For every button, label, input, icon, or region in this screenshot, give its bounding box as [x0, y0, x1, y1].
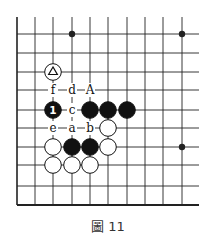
star-point	[179, 144, 185, 150]
move-number: 1	[49, 104, 56, 116]
point-label-b: b	[86, 121, 94, 135]
black-stone	[119, 102, 136, 119]
star-point	[69, 31, 75, 37]
black-stone	[64, 139, 81, 156]
star-point	[179, 31, 185, 37]
white-stone	[45, 139, 62, 156]
point-label-A: A	[85, 83, 95, 97]
go-board-diagram: fdAceab 1	[0, 0, 216, 210]
white-stone	[64, 157, 81, 174]
point-label-e: e	[49, 121, 56, 135]
black-stone	[82, 139, 99, 156]
black-stone	[100, 102, 117, 119]
black-stone-1: 1	[45, 102, 62, 119]
white-stone	[45, 64, 62, 81]
point-label-a: a	[68, 121, 75, 135]
point-label-c: c	[69, 103, 76, 117]
figure-caption: 圖 11	[0, 216, 216, 235]
point-label-d: d	[68, 83, 76, 97]
black-stone	[82, 102, 99, 119]
white-stone	[45, 157, 62, 174]
white-stone	[82, 157, 99, 174]
white-stone	[100, 139, 117, 156]
white-stone	[100, 120, 117, 137]
